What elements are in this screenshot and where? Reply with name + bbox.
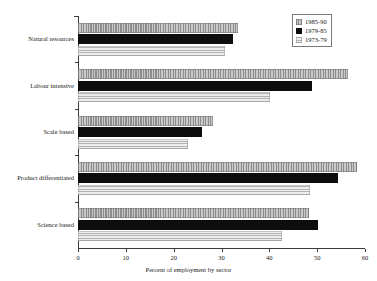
category-label: Science based <box>0 221 74 229</box>
bar <box>78 231 282 241</box>
x-axis-tick-label: 40 <box>257 254 281 262</box>
x-axis-tick-label: 60 <box>353 254 377 262</box>
y-axis-tick <box>75 202 78 203</box>
bars-layer <box>78 16 365 248</box>
category-label: Labour intensive <box>0 82 74 90</box>
bar <box>78 220 318 230</box>
legend-item-1973-79: 1973-79 <box>296 35 327 44</box>
category-label: Natural resources <box>0 35 74 43</box>
x-axis-title: Percent of employment by sector <box>0 266 377 274</box>
category-label: Product differentiated <box>0 174 74 182</box>
legend-swatch-icon-1979-85 <box>296 28 302 34</box>
bar <box>78 69 348 79</box>
bar <box>78 162 357 172</box>
legend-label-1985-90: 1985-90 <box>305 18 327 26</box>
bar-chart: Natural resourcesLabour intensiveScale b… <box>0 0 377 281</box>
bar <box>78 173 338 183</box>
bar <box>78 92 270 102</box>
x-axis-tick <box>174 249 175 252</box>
category-label: Scale based <box>0 128 74 136</box>
bar <box>78 34 233 44</box>
legend-item-1979-85: 1979-85 <box>296 26 327 35</box>
bar <box>78 139 188 149</box>
x-axis-tick <box>269 249 270 252</box>
legend-swatch-icon-1973-79 <box>296 37 302 43</box>
x-axis-tick <box>317 249 318 252</box>
legend-label-1973-79: 1973-79 <box>305 36 327 44</box>
bar <box>78 81 312 91</box>
legend-swatch-icon-1985-90 <box>296 19 302 25</box>
bar <box>78 208 309 218</box>
bar <box>78 46 225 56</box>
y-axis-tick <box>75 62 78 63</box>
y-axis-tick <box>75 109 78 110</box>
x-axis-tick <box>126 249 127 252</box>
x-axis-tick <box>78 249 79 252</box>
x-axis-tick-label: 0 <box>66 254 90 262</box>
legend: 1985-90 1979-85 1973-79 <box>292 14 332 47</box>
x-axis-tick-label: 20 <box>162 254 186 262</box>
x-axis-tick-label: 30 <box>210 254 234 262</box>
bar <box>78 127 202 137</box>
legend-item-1985-90: 1985-90 <box>296 17 327 26</box>
bar <box>78 23 238 33</box>
bar <box>78 185 310 195</box>
x-axis-tick-label: 10 <box>114 254 138 262</box>
x-axis-tick <box>365 249 366 252</box>
x-axis-tick-label: 50 <box>305 254 329 262</box>
legend-label-1979-85: 1979-85 <box>305 27 327 35</box>
x-axis-tick <box>222 249 223 252</box>
y-axis-tick <box>75 155 78 156</box>
bar <box>78 116 213 126</box>
